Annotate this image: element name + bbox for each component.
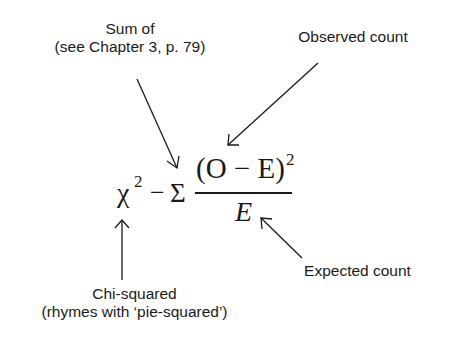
annotation-sum-of-line2: (see Chapter 3, p. 79) [25,38,235,56]
annotation-expected-line1: Expected count [280,262,435,280]
annotation-sum-of: Sum of (see Chapter 3, p. 79) [25,20,235,56]
annotation-chi-squared-line2: (rhymes with ‘pie-squared’) [12,303,257,321]
arrow-expected [261,218,302,258]
arrow-chi-squared [115,220,129,280]
annotation-chi-squared: Chi-squared (rhymes with ‘pie-squared’) [12,285,257,321]
formula-numerator-exponent: 2 [286,150,295,170]
annotation-chi-squared-line1: Chi-squared [12,285,257,303]
arrow-observed [228,63,318,145]
formula-chi: χ [117,177,129,209]
fraction-bar [195,192,292,194]
formula-chi-exponent: 2 [134,172,143,192]
annotation-sum-of-line1: Sum of [25,20,235,38]
annotation-expected: Expected count [280,262,435,280]
formula-denominator: E [235,196,252,228]
formula-numerator: (O − E) [196,152,285,185]
annotation-observed-line1: Observed count [268,28,438,46]
formula-sum-symbol: Σ [170,178,186,209]
arrow-sum-of [137,79,179,168]
formula-operator: − [150,178,165,208]
annotation-observed: Observed count [268,28,438,46]
